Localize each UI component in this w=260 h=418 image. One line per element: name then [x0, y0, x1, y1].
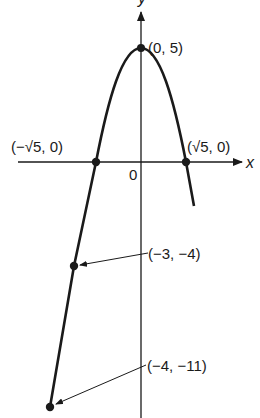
leader-arrow-m4 — [56, 365, 146, 404]
parabola-graph — [0, 0, 260, 418]
vertex-label: (0, 5) — [148, 40, 183, 55]
point-m3-label: (−3, −4) — [148, 246, 201, 261]
left-root-label: (−√5, 0) — [11, 139, 63, 154]
point-m3 — [70, 262, 78, 270]
left-root-point — [92, 158, 100, 166]
parabola-curve — [50, 48, 194, 407]
x-axis-label: x — [246, 155, 254, 171]
right-root-point — [182, 158, 190, 166]
leader-arrow-m3 — [80, 253, 148, 265]
y-axis-label: y — [138, 0, 146, 7]
point-m4-label: (−4, −11) — [147, 358, 207, 373]
origin-label: 0 — [129, 167, 137, 182]
right-root-label: (√5, 0) — [187, 139, 230, 154]
vertex-point — [137, 44, 145, 52]
point-m4 — [46, 403, 54, 411]
